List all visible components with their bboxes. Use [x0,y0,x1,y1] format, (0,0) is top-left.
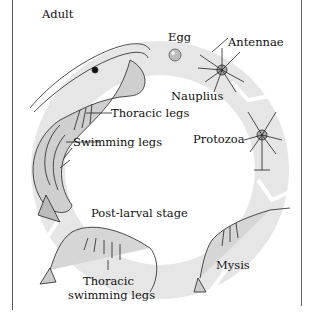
annotation-thoracic-legs: Thoracic legs [111,107,189,120]
annotation-antennae: Antennae [228,36,284,49]
egg-illustration [169,49,181,61]
annotation-swimming-legs: Swimming legs [73,136,162,149]
stage-label-nauplius: Nauplius [171,90,223,103]
stage-label-egg: Egg [168,31,191,44]
stage-label-mysis: Mysis [216,259,250,272]
stage-label-protozoa: Protozoa [193,133,245,146]
stage-label-post-larval: Post-larval stage [91,207,188,220]
annotation-thoracic-swimming-legs-line1: Thoracic [83,275,134,288]
annotation-thoracic-swimming-legs-line2: swimming legs [68,289,155,302]
stage-label-adult: Adult [42,8,73,21]
